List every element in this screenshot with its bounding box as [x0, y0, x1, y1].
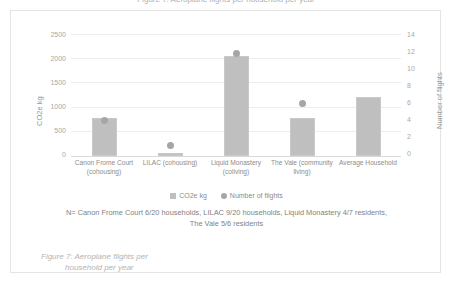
dot-lilac — [167, 142, 174, 149]
sample-size-note-line2: The Vale 5/6 residents — [190, 219, 263, 228]
legend-square-swatch-icon — [170, 193, 176, 199]
x-label-line2: living) — [293, 168, 310, 175]
bar-average-household — [356, 97, 381, 156]
gridline-2500 — [71, 34, 401, 35]
y-tick-right-2: 2 — [407, 133, 411, 140]
y-tick-right-14: 14 — [407, 31, 415, 38]
figure-caption-line1: Figure 7: Aeroplane flights per — [41, 252, 148, 261]
plot-area — [71, 34, 401, 156]
y-tick-right-6: 6 — [407, 99, 411, 106]
chart-legend: CO2e kg Number of flights — [11, 192, 442, 199]
dot-canon-frome-court — [101, 117, 108, 124]
x-label-line1: Liquid Monastery — [211, 159, 261, 166]
y-axis-right-title: Number of flights — [435, 72, 444, 129]
y-tick-left-500: 500 — [54, 127, 66, 134]
y-axis-left-title-wrap: CO2e kg — [24, 66, 36, 126]
legend-item-co2e: CO2e kg — [170, 192, 207, 199]
sample-size-note: N= Canon Frome Court 6/20 households, LI… — [29, 207, 424, 229]
y-tick-left-0: 0 — [62, 151, 66, 158]
legend-circle-swatch-icon — [221, 193, 227, 199]
dot-liquid-monastery — [233, 50, 240, 57]
figure-title: Figure 7: Aeroplane flights per househol… — [0, 0, 452, 6]
x-axis-baseline — [71, 156, 401, 157]
y-tick-left-1500: 1500 — [50, 79, 66, 86]
x-label-line1: Canon Frome Court — [75, 159, 133, 166]
figure-caption: Figure 7: Aeroplane flights per househol… — [41, 251, 271, 273]
y-tick-right-4: 4 — [407, 116, 411, 123]
y-axis-right-ticks: 14 12 10 8 6 4 2 0 — [407, 34, 431, 156]
y-tick-right-12: 12 — [407, 48, 415, 55]
y-tick-right-10: 10 — [407, 65, 415, 72]
legend-item-flights: Number of flights — [221, 192, 283, 199]
x-axis-labels: Canon Frome Court (cohousing) LILAC (coh… — [71, 158, 401, 184]
bar-the-vale — [290, 118, 315, 156]
sample-size-note-line1: N= Canon Frome Court 6/20 households, LI… — [66, 208, 387, 217]
x-label-line1: LILAC (cohousing) — [143, 159, 198, 166]
figure-box: CO2e kg Number of flights 2500 2000 1500… — [10, 10, 441, 273]
figure-caption-line2: household per year — [41, 262, 271, 273]
x-label-line1: The Vale (community — [271, 159, 333, 166]
x-label-canon-frome-court: Canon Frome Court (cohousing) — [71, 158, 137, 184]
bar-liquid-monastery — [224, 56, 249, 156]
x-label-line1: Average Household — [339, 159, 397, 166]
x-label-lilac: LILAC (cohousing) — [137, 158, 203, 184]
legend-label-co2e: CO2e kg — [179, 192, 207, 199]
y-axis-left-ticks: 2500 2000 1500 1000 500 0 — [36, 34, 66, 156]
x-label-line2: (cohousing) — [87, 168, 121, 175]
x-label-liquid-monastery: Liquid Monastery (coliving) — [203, 158, 269, 184]
y-tick-right-0: 0 — [407, 150, 411, 157]
y-tick-left-2500: 2500 — [50, 31, 66, 38]
legend-label-flights: Number of flights — [230, 192, 283, 199]
y-tick-left-1000: 1000 — [50, 103, 66, 110]
dot-the-vale — [299, 100, 306, 107]
x-label-line2: (coliving) — [223, 168, 249, 175]
x-label-the-vale: The Vale (community living) — [269, 158, 335, 184]
y-tick-right-8: 8 — [407, 82, 411, 89]
y-tick-left-2000: 2000 — [50, 55, 66, 62]
x-label-average-household: Average Household — [335, 158, 401, 184]
bar-lilac — [158, 153, 183, 156]
